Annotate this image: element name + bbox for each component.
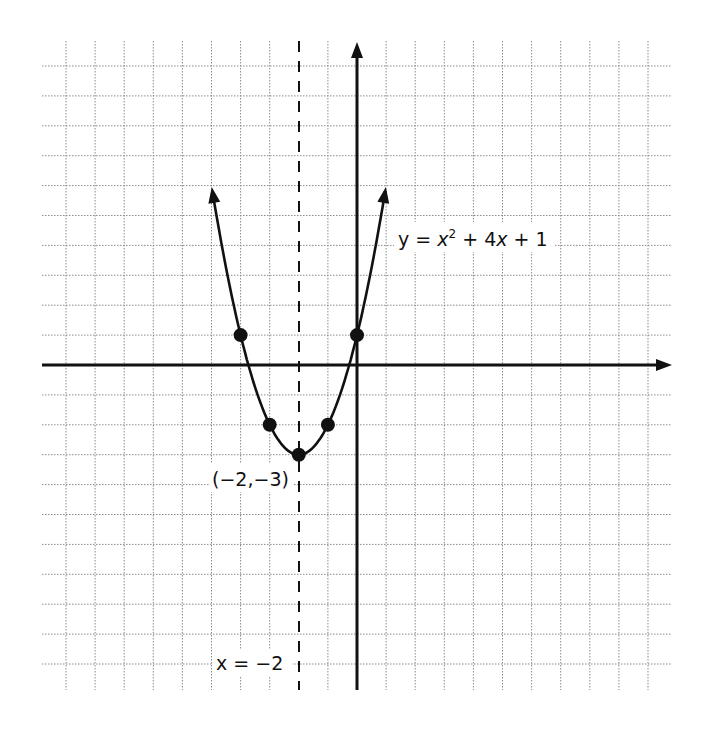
data-point [292,448,306,462]
axes [42,42,672,690]
curve-arrow-left-icon [208,187,220,204]
equation-const: + 1 [507,228,547,250]
equation-label: y = x2 + 4x + 1 [398,227,548,250]
symmetry-label: x = −2 [216,652,283,674]
curve-arrow-right-icon [377,187,389,204]
equation-x: x [436,228,449,250]
y-axis-arrow-icon [351,42,363,58]
x-axis-arrow-icon [656,359,672,371]
data-point [321,418,335,432]
data-point [263,418,277,432]
parabola-graph: y = x2 + 4x + 1 (−2,−3) x = −2 [0,0,705,735]
equation-term: + 4 [456,228,496,250]
equation-exponent: 2 [449,227,457,241]
equation-y: y [398,228,409,250]
vertex-label: (−2,−3) [212,468,289,490]
equation-x2: x [495,228,508,250]
data-point [234,328,248,342]
data-point [350,328,364,342]
equation-eq: = [409,228,437,250]
